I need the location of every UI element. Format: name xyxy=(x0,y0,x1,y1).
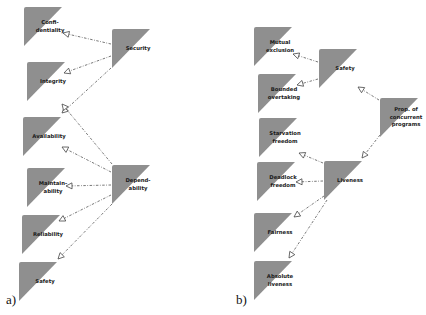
node-label: Reliability xyxy=(20,215,76,254)
node-label-line: Deadlock xyxy=(269,174,296,182)
node-mutual-exclusion: Mutualexclusion xyxy=(254,27,292,66)
node-label-line: Integrity xyxy=(40,78,66,86)
node-prop-concurrent: Prop. ofconcurrentprograms xyxy=(380,98,418,137)
node-safety-a: Safety xyxy=(19,262,57,301)
node-label-line: Liveness xyxy=(337,177,363,185)
node-label-line: liveness xyxy=(268,281,292,289)
node-label-line: freedom xyxy=(270,182,295,190)
node-label-line: Mutual xyxy=(270,39,291,47)
node-label-line: Safety xyxy=(335,65,354,73)
node-label-line: Reliability xyxy=(33,231,63,239)
node-label-line: freedom xyxy=(272,138,297,146)
node-deadlock-freedom: Deadlockfreedom xyxy=(257,162,295,201)
node-label: Liveness xyxy=(322,161,378,200)
panel-label-a: a) xyxy=(6,292,16,308)
node-label: Maintain-ability xyxy=(25,168,81,207)
node-label: Safety xyxy=(317,49,373,88)
node-label-line: Safety xyxy=(35,278,54,286)
arrowhead-icon xyxy=(289,251,295,258)
node-label-line: Maintain- xyxy=(39,180,67,188)
node-label-line: Fairness xyxy=(268,229,293,237)
node-availability: Availability xyxy=(23,117,61,156)
node-liveness: Liveness xyxy=(324,161,362,200)
node-label-line: Confi- xyxy=(41,19,58,27)
node-fairness: Fairness xyxy=(254,213,292,252)
node-bounded-overtaking: Boundedovertaking xyxy=(258,74,296,113)
node-label-line: ability xyxy=(44,188,63,196)
node-label: Deadlockfreedom xyxy=(255,162,311,201)
node-integrity: Integrity xyxy=(27,62,65,101)
node-label-line: overtaking xyxy=(268,94,300,102)
node-label: Starvationfreedom xyxy=(257,118,313,157)
edge-prop-concurrent-to-safety-b xyxy=(363,90,379,100)
node-label-line: ability xyxy=(129,185,148,193)
node-label: Safety xyxy=(17,262,73,301)
node-label: Availability xyxy=(21,117,77,156)
node-security: Security xyxy=(112,29,150,68)
node-label-line: Security xyxy=(126,45,151,53)
node-label: Fairness xyxy=(252,213,308,252)
node-label: Depend-ability xyxy=(110,165,166,204)
node-absolute-liveness: Absoluteliveness xyxy=(254,261,292,300)
node-safety-b: Safety xyxy=(319,49,357,88)
node-label-line: Starvation xyxy=(269,130,300,138)
node-label-line: concurrent xyxy=(390,114,423,122)
node-label-line: exclusion xyxy=(266,47,294,55)
node-label-line: Prop. of xyxy=(394,106,418,114)
node-label: Absoluteliveness xyxy=(252,261,308,300)
node-label-line: Depend- xyxy=(125,177,150,185)
node-label-line: dentiality xyxy=(36,27,65,35)
panel-label-b: b) xyxy=(236,292,247,308)
node-label: Security xyxy=(110,29,166,68)
node-label: Confi-dentiality xyxy=(22,7,78,46)
node-label-line: Absolute xyxy=(267,273,293,281)
node-label-line: programs xyxy=(392,121,421,129)
node-starvation-freedom: Starvationfreedom xyxy=(259,118,297,157)
node-maintainability: Maintain-ability xyxy=(27,168,65,207)
node-confidentiality: Confi-dentiality xyxy=(24,7,62,46)
node-dependability: Depend-ability xyxy=(112,165,150,204)
node-label-line: Availability xyxy=(32,133,65,141)
node-label: Prop. ofconcurrentprograms xyxy=(378,98,426,137)
node-reliability: Reliability xyxy=(22,215,60,254)
node-label: Boundedovertaking xyxy=(256,74,312,113)
node-label-line: Bounded xyxy=(271,86,297,94)
edge-prop-concurrent-to-liveness xyxy=(366,135,380,153)
node-label: Integrity xyxy=(25,62,81,101)
node-label: Mutualexclusion xyxy=(252,27,308,66)
arrowhead-icon xyxy=(362,151,368,158)
